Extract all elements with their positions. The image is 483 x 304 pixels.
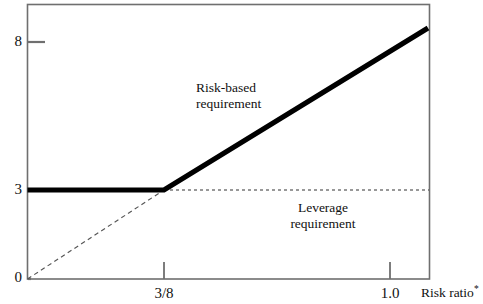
x-tick-label-one-point-zero: 1.0	[370, 286, 410, 301]
x-axis-title: Risk ratio*	[421, 286, 479, 300]
annotation-risk-based-requirement: Risk-based requirement	[196, 80, 326, 111]
x-axis-title-text: Risk ratio	[421, 285, 474, 300]
annotation-leverage-requirement: Leverage requirement	[258, 200, 388, 231]
annotation-risk-based-line2: requirement	[196, 96, 326, 112]
y-tick-label-0: 0	[8, 270, 22, 285]
chart-figure: 8 3 0 3/8 1.0 Risk ratio* Risk-based req…	[0, 0, 483, 304]
y-tick-label-3: 3	[8, 182, 22, 197]
annotation-leverage-line1: Leverage	[298, 200, 348, 215]
y-tick-label-8: 8	[8, 34, 22, 49]
x-tick-label-three-eighths: 3/8	[144, 286, 184, 301]
plot-frame	[28, 5, 430, 280]
plot-canvas	[0, 0, 483, 304]
x-axis-footnote-marker: *	[474, 284, 479, 294]
annotation-leverage-line2: requirement	[258, 216, 388, 232]
annotation-risk-based-line1: Risk-based	[196, 80, 256, 95]
